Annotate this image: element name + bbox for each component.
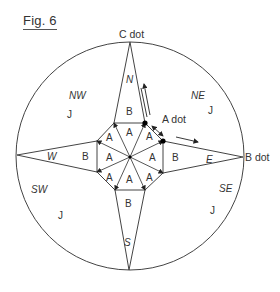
- j-label-sw: J: [58, 210, 63, 221]
- label-s: S: [124, 237, 131, 248]
- j-label-ne: J: [208, 105, 213, 116]
- label-nw: NW: [69, 90, 87, 101]
- a-label-1: A: [106, 132, 113, 143]
- center-point: [128, 155, 131, 158]
- b-label-east: B: [172, 152, 179, 163]
- compass-diagram: C dot B dot A dot N S E W NW NE SW SE J …: [0, 0, 280, 292]
- a-label-4: A: [149, 152, 156, 163]
- a-label-3: A: [146, 131, 153, 142]
- a-label-2: A: [126, 127, 133, 138]
- b-dot-marker: [160, 138, 165, 143]
- j-label-se: J: [210, 205, 215, 216]
- a-dot-marker: [142, 120, 147, 125]
- label-w: W: [47, 151, 58, 162]
- a-label-5: A: [146, 172, 153, 183]
- label-e: E: [206, 154, 213, 165]
- label-sw: SW: [31, 184, 49, 195]
- c-dot-label: C dot: [119, 28, 144, 40]
- a-label-8: A: [106, 152, 113, 163]
- label-n: N: [126, 74, 134, 85]
- b-label-west: B: [82, 151, 89, 162]
- b-label-north: B: [126, 106, 133, 117]
- label-ne: NE: [191, 90, 205, 101]
- a-label-6: A: [126, 174, 133, 185]
- a-dot-label: A dot: [162, 113, 186, 125]
- b-dot-label: B dot: [245, 151, 270, 163]
- label-se: SE: [219, 183, 233, 194]
- b-label-south: B: [125, 198, 132, 209]
- j-label-nw: J: [67, 109, 72, 120]
- a-label-7: A: [106, 172, 113, 183]
